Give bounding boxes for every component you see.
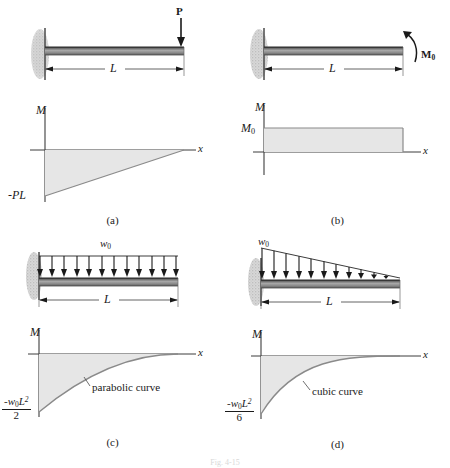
- span-label-d: L: [326, 295, 333, 307]
- moment-axis-label-c: M: [30, 326, 40, 338]
- moment-value-d-numerator: -w0L2: [225, 398, 254, 412]
- panel-c: w0 L M x parabolic curve -w0L2 2 (c): [0, 234, 225, 468]
- panel-b: M0 L M x M0 (b): [225, 0, 450, 234]
- panel-d-graphic: [225, 234, 450, 468]
- moment-value-c-numerator: -w0L2: [2, 396, 31, 410]
- panel-a-graphic: [0, 0, 225, 234]
- span-label-b: L: [329, 62, 336, 74]
- x-axis-label-c: x: [198, 347, 203, 358]
- moment-axis-label-d: M: [252, 328, 262, 340]
- panel-c-graphic: [0, 234, 225, 468]
- panel-b-graphic: [225, 0, 450, 234]
- beam-c: [39, 278, 178, 286]
- moment-value-a: -PL: [8, 189, 26, 201]
- panel-d: w0 L M x cubic curve -w0L2 6 (d): [225, 234, 450, 468]
- applied-moment-arrow-b: [403, 31, 417, 62]
- moment-value-c: -w0L2 2: [2, 396, 31, 421]
- curve-note-d: cubic curve: [312, 386, 363, 397]
- moment-value-b-text: M: [241, 121, 251, 135]
- load-label-w0-d: w0: [258, 236, 269, 248]
- distributed-load-d: [259, 248, 400, 279]
- distributed-load-c: [37, 256, 179, 277]
- moment-value-d-num-sup: 2: [248, 397, 252, 406]
- moment-value-c-fraction: -w0L2 2: [2, 396, 31, 421]
- moment-value-d-num-w: -w: [227, 397, 238, 409]
- moment-axis-label-a: M: [36, 104, 46, 116]
- point-load-arrow-a: [177, 18, 185, 47]
- moment-value-d: -w0L2 6: [225, 398, 254, 423]
- moment-area-b: [264, 128, 403, 152]
- span-label-c: L: [104, 293, 111, 305]
- span-label-a: L: [110, 62, 117, 74]
- moment-axis-label-b: M: [255, 101, 265, 113]
- beam-b: [264, 47, 403, 55]
- load-label-w0-d-sub: 0: [265, 240, 269, 249]
- panel-caption-d: (d): [225, 438, 450, 450]
- x-axis-label-a: x: [198, 143, 203, 154]
- figure-bottom-caption: Fig. 4-15: [0, 458, 450, 467]
- moment-value-c-num-w: -w: [4, 395, 15, 407]
- moment-value-b-sub: 0: [251, 127, 255, 136]
- curve-note-c: parabolic curve: [92, 382, 160, 393]
- load-label-m0-sub: 0: [431, 53, 435, 62]
- curve-note-leader-d: [303, 381, 310, 390]
- moment-value-c-denominator: 2: [2, 410, 31, 421]
- moment-value-d-denominator: 6: [225, 412, 254, 423]
- panel-caption-a: (a): [0, 214, 225, 226]
- moment-area-a: [45, 150, 184, 196]
- load-label-w0-c: w0: [100, 238, 111, 250]
- load-label-m0: M0: [421, 49, 435, 61]
- panel-caption-b: (b): [225, 214, 450, 226]
- moment-value-d-fraction: -w0L2 6: [225, 398, 254, 423]
- beam-a: [45, 47, 184, 55]
- load-label-w0-c-sub: 0: [107, 242, 111, 251]
- figure-root: P L M x -PL (a): [0, 0, 450, 468]
- moment-value-c-num-sup: 2: [25, 395, 29, 404]
- beam-d: [261, 280, 400, 288]
- load-label-m0-text: M: [421, 48, 431, 60]
- x-axis-label-b: x: [423, 145, 428, 156]
- moment-value-b: M0: [241, 122, 255, 136]
- x-axis-label-d: x: [423, 349, 428, 360]
- load-label-p: P: [176, 6, 183, 17]
- panel-a: P L M x -PL (a): [0, 0, 225, 234]
- panel-caption-c: (c): [0, 436, 225, 448]
